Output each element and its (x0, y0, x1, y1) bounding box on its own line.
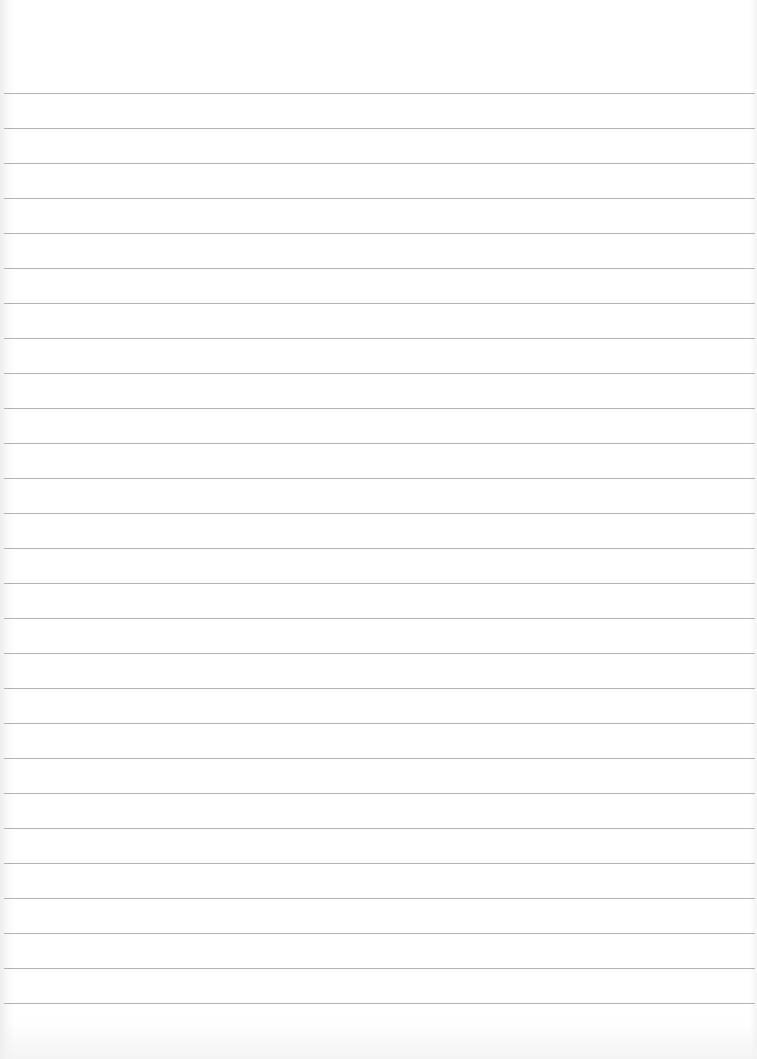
ruled-line (4, 898, 755, 899)
ruled-line (4, 933, 755, 934)
ruled-line (4, 443, 755, 444)
ruled-line (4, 93, 755, 94)
ruled-line (4, 1003, 755, 1004)
ruled-line (4, 583, 755, 584)
ruled-line (4, 758, 755, 759)
ruled-line (4, 128, 755, 129)
ruled-line (4, 793, 755, 794)
ruled-line (4, 478, 755, 479)
ruled-line (4, 618, 755, 619)
ruled-line (4, 688, 755, 689)
lined-paper-sheet (0, 0, 757, 1059)
ruled-line (4, 408, 755, 409)
ruled-line (4, 968, 755, 969)
ruled-line (4, 338, 755, 339)
ruled-line (4, 653, 755, 654)
ruled-line (4, 373, 755, 374)
ruled-line (4, 163, 755, 164)
ruled-line (4, 828, 755, 829)
ruled-line (4, 723, 755, 724)
ruled-line (4, 268, 755, 269)
bottom-shadow (0, 1019, 757, 1059)
ruled-line (4, 863, 755, 864)
ruled-line (4, 548, 755, 549)
ruled-line (4, 233, 755, 234)
ruled-line (4, 198, 755, 199)
ruled-line (4, 303, 755, 304)
ruled-line (4, 513, 755, 514)
